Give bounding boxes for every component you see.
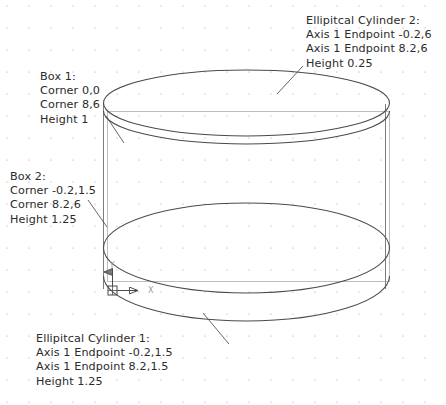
cylinder1-height: Height 1.25 [36, 375, 173, 389]
box2-height: Height 1.25 [10, 213, 96, 227]
box1-height: Height 1 [40, 113, 100, 127]
box2-title: Box 2: [10, 170, 96, 184]
label-box-2: Box 2: Corner -0.2,1.5 Corner 8.2,6 Heig… [10, 170, 96, 227]
label-elliptical-cylinder-1: Ellipitcal Cylinder 1: Axis 1 Endpoint -… [36, 332, 173, 389]
label-box-1: Box 1: Corner 0,0 Corner 8,6 Height 1 [40, 70, 100, 127]
label-elliptical-cylinder-2: Ellipitcal Cylinder 2: Axis 1 Endpoint -… [306, 14, 432, 71]
cylinder2-axis-endpoint-1: Axis 1 Endpoint -0.2,6 [306, 28, 432, 42]
cylinder1-title: Ellipitcal Cylinder 1: [36, 332, 173, 346]
cylinder1-axis-endpoint-2: Axis 1 Endpoint 8.2,1.5 [36, 360, 173, 374]
cad-drawing-canvas: X Y Ellipitcal Cylinder 2: Axis 1 Endpoi… [0, 0, 446, 405]
ucs-y-axis-label: Y [109, 261, 115, 270]
box1-title: Box 1: [40, 70, 100, 84]
cylinder2-axis-endpoint-2: Axis 1 Endpoint 8.2,6 [306, 42, 432, 56]
cylinder2-height: Height 0.25 [306, 57, 432, 71]
box1-corner-2: Corner 8,6 [40, 98, 100, 112]
box2-corner-1: Corner -0.2,1.5 [10, 184, 96, 198]
ucs-x-axis-label: X [148, 286, 154, 295]
cylinder2-title: Ellipitcal Cylinder 2: [306, 14, 432, 28]
box1-corner-1: Corner 0,0 [40, 84, 100, 98]
box2-corner-2: Corner 8.2,6 [10, 198, 96, 212]
cylinder1-axis-endpoint-1: Axis 1 Endpoint -0.2,1.5 [36, 346, 173, 360]
